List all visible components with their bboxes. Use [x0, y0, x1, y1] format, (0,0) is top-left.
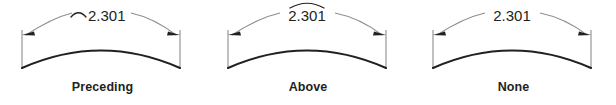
arrowhead-left-icon — [433, 32, 446, 36]
arc-dimension-drawing-above: 2.301 — [206, 0, 411, 78]
dimension-arc-right — [335, 13, 382, 35]
dimension-value-text: 2.301 — [288, 7, 326, 24]
measured-arc-object-line — [228, 51, 386, 69]
panel-caption-preceding: Preceding — [0, 79, 205, 95]
figure-row: 2.301 Preceding 2.301 Above — [0, 0, 616, 105]
figure-panel-above: 2.301 Above — [206, 0, 411, 105]
measured-arc-object-line — [433, 51, 591, 69]
panel-caption-above: Above — [206, 79, 411, 95]
figure-panel-none: 2.301 None — [411, 0, 616, 105]
arrowhead-right-icon — [578, 32, 591, 36]
arrowhead-left-icon — [22, 32, 35, 36]
figure-panel-preceding: 2.301 Preceding — [0, 0, 205, 105]
dimension-arc-left — [232, 13, 280, 35]
arrowhead-right-icon — [167, 32, 180, 36]
dimension-arc-right — [131, 13, 176, 35]
measured-arc-object-line — [22, 51, 180, 69]
dimension-arc-left — [26, 13, 72, 35]
dimension-value-text: 2.301 — [493, 7, 531, 24]
arc-dimension-drawing-none: 2.301 — [411, 0, 616, 78]
dimension-arc-right — [540, 13, 587, 35]
arrowhead-right-icon — [373, 32, 386, 36]
arc-length-symbol-icon — [71, 13, 86, 17]
dimension-value-text: 2.301 — [88, 7, 126, 24]
panel-caption-none: None — [411, 79, 616, 95]
arc-dimension-drawing-preceding: 2.301 — [0, 0, 205, 78]
arrowhead-left-icon — [228, 32, 241, 36]
dimension-arc-left — [437, 13, 485, 35]
